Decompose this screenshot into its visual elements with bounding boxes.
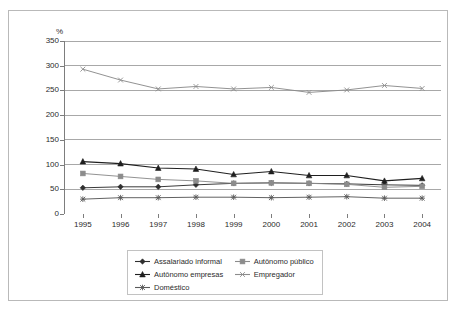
- legend-item-assalariado-informal[interactable]: Assalariado informal: [134, 255, 234, 268]
- data-point-marker: [80, 171, 85, 176]
- x-tick-label: 2000: [253, 221, 289, 229]
- y-tick-mark: [60, 66, 64, 67]
- data-point-marker: [344, 182, 349, 187]
- data-point-marker: [420, 184, 425, 189]
- data-point-marker: [269, 180, 274, 185]
- series-line: [83, 173, 422, 187]
- data-point-marker: [382, 185, 387, 190]
- data-point-marker: [306, 194, 312, 200]
- y-tick-mark: [60, 115, 64, 116]
- cross-marker-icon: [234, 270, 251, 279]
- series-5: [80, 194, 425, 202]
- y-tick-label: 350: [33, 37, 59, 45]
- data-point-marker: [344, 194, 350, 200]
- x-tick-label: 1997: [140, 221, 176, 229]
- chart-figure-frame: % 050100150200250300350 1995199619971998…: [8, 10, 448, 301]
- y-axis-unit-label: %: [56, 27, 63, 36]
- x-tick-label: 1996: [103, 221, 139, 229]
- x-tick-label: 2004: [404, 221, 440, 229]
- y-tick-label: 150: [33, 136, 59, 144]
- data-point-marker: [118, 174, 123, 179]
- data-point-marker: [155, 195, 161, 201]
- legend-item-empregador[interactable]: Empregador: [234, 268, 316, 281]
- x-tick-mark: [83, 214, 84, 218]
- data-point-marker: [80, 196, 86, 202]
- x-tick-label: 1998: [178, 221, 214, 229]
- series-line: [83, 69, 422, 92]
- x-tick-label: 1999: [216, 221, 252, 229]
- x-tick-mark: [384, 214, 385, 218]
- data-point-marker: [194, 178, 199, 183]
- x-tick-label: 2003: [366, 221, 402, 229]
- y-tick-mark: [60, 140, 64, 141]
- series-line: [83, 197, 422, 199]
- y-tick-mark: [60, 189, 64, 190]
- square-marker-icon: [234, 257, 251, 266]
- data-point-marker: [269, 195, 275, 201]
- x-tick-mark: [309, 214, 310, 218]
- x-tick-label: 2001: [291, 221, 327, 229]
- x-tick-mark: [196, 214, 197, 218]
- y-tick-label: 0: [33, 210, 59, 218]
- y-tick-mark: [60, 165, 64, 166]
- data-point-marker: [156, 177, 161, 182]
- diamond-marker-icon: [134, 257, 151, 266]
- legend-row: Autônomo empresasEmpregador: [134, 268, 316, 281]
- data-point-marker: [140, 285, 146, 291]
- y-tick-label: 200: [33, 111, 59, 119]
- y-tick-label: 100: [33, 161, 59, 169]
- y-tick-label: 50: [33, 185, 59, 193]
- legend-item-label: Assalariado informal: [154, 257, 222, 266]
- x-tick-mark: [121, 214, 122, 218]
- series-line: [83, 183, 422, 188]
- y-tick-mark: [60, 90, 64, 91]
- plot-area: [64, 41, 441, 214]
- x-tick-label: 2002: [329, 221, 365, 229]
- legend-row: Doméstico: [134, 281, 316, 294]
- legend-item-label: Autônomo empresas: [154, 270, 223, 279]
- legend-row: Assalariado informalAutônomo público: [134, 255, 316, 268]
- chart-legend: Assalariado informalAutônomo públicoAutô…: [127, 250, 323, 295]
- data-point-marker: [231, 181, 236, 186]
- data-point-marker: [193, 194, 199, 200]
- legend-item-label: Empregador: [254, 270, 295, 279]
- data-point-marker: [307, 181, 312, 186]
- x-tick-mark: [234, 214, 235, 218]
- data-point-marker: [140, 259, 145, 264]
- data-point-marker: [382, 195, 388, 201]
- y-tick-mark: [60, 214, 64, 215]
- x-tick-label: 1995: [65, 221, 101, 229]
- data-point-marker: [419, 195, 425, 201]
- legend-item-label: Autônomo público: [254, 257, 314, 266]
- y-tick-label: 250: [33, 86, 59, 94]
- data-point-marker: [118, 184, 123, 189]
- data-point-marker: [231, 194, 237, 200]
- series-3: [80, 159, 425, 184]
- x-tick-mark: [347, 214, 348, 218]
- x-tick-mark: [158, 214, 159, 218]
- data-point-marker: [156, 184, 161, 189]
- y-tick-label: 300: [33, 62, 59, 70]
- legend-item-dom-stico[interactable]: Doméstico: [134, 281, 238, 294]
- legend-item-aut-nomo-empresas[interactable]: Autônomo empresas: [134, 268, 234, 281]
- y-tick-mark: [60, 41, 64, 42]
- data-point-marker: [118, 195, 124, 201]
- asterisk-marker-icon: [134, 283, 151, 292]
- legend-item-label: Doméstico: [154, 283, 189, 292]
- line-chart-svg: [64, 41, 441, 214]
- legend-item-aut-nomo-p-blico[interactable]: Autônomo público: [234, 255, 316, 268]
- x-tick-mark: [422, 214, 423, 218]
- data-point-marker: [240, 259, 245, 264]
- triangle-marker-icon: [134, 270, 151, 279]
- x-tick-mark: [271, 214, 272, 218]
